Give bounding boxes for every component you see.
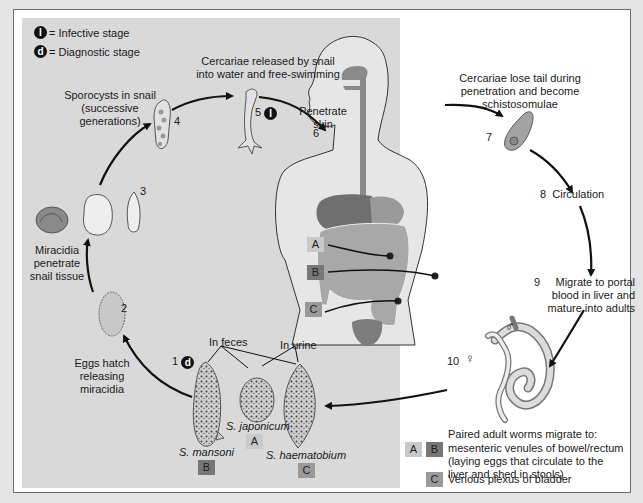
arrow-8-to-9 xyxy=(580,206,591,275)
legend-diagnostic: d = Diagnostic stage xyxy=(34,45,140,58)
legend-infective: I = Infective stage xyxy=(34,26,129,39)
stage-number-1: 1 d xyxy=(172,355,194,369)
label-line: Cercariae lose tail during xyxy=(455,72,585,85)
label-line: miracidia xyxy=(72,383,132,396)
stage-number-5: 5 I xyxy=(255,106,277,120)
egg-s-mansoni-icon xyxy=(193,362,224,446)
adult-site-box-a: A xyxy=(405,442,422,457)
label-line: Circulation xyxy=(552,188,604,200)
label-line: Penetrate xyxy=(298,105,348,118)
infective-stage-icon: I xyxy=(34,26,47,39)
label-line: generations) xyxy=(62,115,158,128)
arrow-9-to-10 xyxy=(550,310,584,366)
label-in-feces: In feces xyxy=(209,336,248,349)
label-lose-tail: Cercariae lose tail during penetration a… xyxy=(455,72,585,111)
adult-worms-icon xyxy=(488,318,550,420)
label-line: Sporocysts in snail xyxy=(62,89,158,102)
label-line: into water and free-swimming xyxy=(188,68,348,81)
arrow-7-to-8 xyxy=(530,150,572,192)
diagnostic-stage-icon: d xyxy=(181,356,194,369)
organ-box-a: A xyxy=(307,237,324,252)
label-line: Miracidia xyxy=(28,244,86,257)
label-line: releasing xyxy=(72,370,132,383)
stage-number-4: 4 xyxy=(174,115,180,127)
label-penetrate-skin: Penetrate skin xyxy=(298,105,348,131)
species-s-japonicum: S. japonicum xyxy=(226,420,290,433)
arrow-3-to-4 xyxy=(100,124,150,185)
stage-number-3: 3 xyxy=(140,185,146,197)
adult-site-box-b: B xyxy=(426,442,443,457)
label-migrate: Migrate to portal blood in liver and mat… xyxy=(543,276,635,315)
label-line: Cercariae released by snail xyxy=(188,55,348,68)
snail-icon xyxy=(36,192,140,235)
label-sporocysts: Sporocysts in snail (successive generati… xyxy=(62,89,158,128)
label-line: (laying eggs that circulate to the xyxy=(448,455,623,468)
stage-number-6: 6 xyxy=(313,127,319,139)
stage-number: 1 xyxy=(172,355,178,367)
label-line: Migrate to portal xyxy=(543,276,635,289)
label-line: penetration and become xyxy=(455,85,585,98)
label-line: (successive xyxy=(62,102,158,115)
species-s-haematobium: S. haematobium xyxy=(266,449,346,462)
miracidium-icon xyxy=(99,292,125,336)
label-paired-adults: Paired adult worms migrate to: xyxy=(448,428,597,441)
site-box-b: B xyxy=(198,460,215,475)
label-line: snail tissue xyxy=(28,270,86,283)
stage-number-9: 9 xyxy=(534,276,540,288)
label-in-urine: In urine xyxy=(280,339,317,352)
label-line: mesenteric venules of bowel/rectum xyxy=(448,442,623,455)
cercaria-icon xyxy=(238,89,262,154)
legend-infective-text: = Infective stage xyxy=(49,27,129,39)
label-bladder: Venous plexus of bladder xyxy=(448,473,572,486)
female-symbol-icon: ♀ xyxy=(465,352,475,365)
arrow-2-to-miracidia xyxy=(87,240,93,292)
schistosomulum-icon xyxy=(505,112,534,150)
label-circulation: 8 Circulation xyxy=(540,188,604,201)
label-line: schistosomulae xyxy=(455,98,585,111)
arrow-10-to-1 xyxy=(326,390,447,406)
egg-s-haematobium-icon xyxy=(284,364,315,448)
adult-site-box-c: C xyxy=(426,472,443,487)
human-body-icon xyxy=(276,36,439,346)
diagnostic-stage-icon: d xyxy=(34,45,47,58)
label-miracidia-penetrate: Miracidia penetrate snail tissue xyxy=(28,244,86,283)
stage-number: 8 xyxy=(540,188,546,200)
arrow-4-to-5 xyxy=(172,96,232,110)
infective-stage-icon: I xyxy=(264,107,277,120)
male-symbol-icon: ♂ xyxy=(505,320,515,333)
egg-s-japonicum-icon xyxy=(240,378,274,422)
stage-number-2: 2 xyxy=(121,302,127,314)
label-line: skin xyxy=(298,118,348,131)
label-line: blood in liver and xyxy=(543,289,635,302)
stage-number-7: 7 xyxy=(486,131,492,143)
label-cercariae-released: Cercariae released by snail into water a… xyxy=(188,55,348,81)
organ-box-b: B xyxy=(307,265,324,280)
label-line: mature into adults xyxy=(543,302,635,315)
label-line: Eggs hatch xyxy=(72,357,132,370)
stage-number: 5 xyxy=(255,106,261,118)
label-line: penetrate xyxy=(28,257,86,270)
site-box-a: A xyxy=(246,434,263,449)
legend-diagnostic-text: = Diagnostic stage xyxy=(49,46,140,58)
stage-number-10: 10 xyxy=(447,355,459,367)
organ-box-c: C xyxy=(305,302,322,317)
species-s-mansoni: S. mansoni xyxy=(179,446,234,459)
label-eggs-hatch: Eggs hatch releasing miracidia xyxy=(72,357,132,396)
site-box-c: C xyxy=(298,463,315,478)
